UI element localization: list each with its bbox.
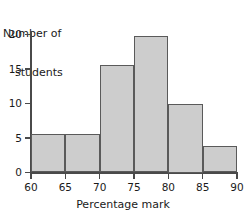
bar-65-70	[65, 134, 99, 173]
x-tick-label-75: 75	[122, 182, 146, 193]
x-tick-label-65: 65	[53, 182, 77, 193]
y-tick-label-20: 20	[0, 29, 22, 40]
bar-70-75	[100, 65, 134, 173]
x-tick-label-80: 80	[156, 182, 180, 193]
x-tick-80	[168, 173, 169, 179]
y-tick-15	[25, 68, 31, 69]
y-tick-20	[25, 34, 31, 35]
histogram-chart: Number of students 05101520 606570758085…	[0, 0, 246, 219]
x-tick-label-60: 60	[19, 182, 43, 193]
y-tick-label-15: 15	[0, 64, 22, 75]
x-tick-90	[236, 173, 237, 179]
x-tick-label-70: 70	[88, 182, 112, 193]
bar-75-80	[134, 36, 168, 173]
bar-60-65	[31, 134, 65, 173]
bar-85-90	[203, 146, 237, 172]
y-tick-label-10: 10	[0, 98, 22, 109]
x-tick-70	[99, 173, 100, 179]
x-tick-60	[30, 173, 31, 179]
x-axis-title: Percentage mark	[0, 199, 246, 211]
y-tick-label-0: 0	[0, 167, 22, 178]
x-tick-75	[133, 173, 134, 179]
x-tick-85	[202, 173, 203, 179]
x-tick-label-90: 90	[225, 182, 246, 193]
x-tick-label-85: 85	[191, 182, 215, 193]
bar-80-85	[168, 104, 202, 173]
y-tick-label-5: 5	[0, 133, 22, 144]
x-tick-65	[65, 173, 66, 179]
y-tick-10	[25, 103, 31, 104]
